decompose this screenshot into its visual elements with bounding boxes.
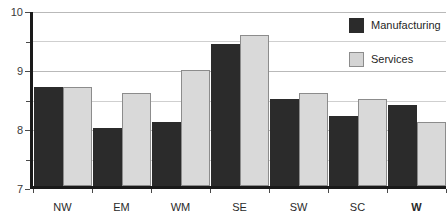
x-axis-label-wm: WM: [151, 199, 210, 215]
y-tick-mark: [25, 71, 30, 72]
bar-chart: 78910 NWEMWMSESWSCW Manufacturing Servic…: [0, 0, 448, 223]
x-tick-mark: [92, 189, 93, 193]
bar-wm-services: [181, 70, 210, 186]
bar-group: [151, 12, 210, 186]
y-tick-label: 10: [11, 7, 23, 18]
bar-se-services: [240, 35, 269, 186]
bar-w-manufacturing: [388, 105, 417, 186]
x-axis-label-sw: SW: [269, 199, 328, 215]
y-axis-line: [30, 12, 33, 189]
x-tick-mark: [269, 189, 270, 193]
bar-group: [92, 12, 151, 186]
legend-swatch-services-icon: [349, 52, 364, 67]
bar-group: [33, 12, 92, 186]
chart-legend: Manufacturing Services: [349, 16, 441, 84]
x-axis-label-em: EM: [92, 199, 151, 215]
x-axis-ticks: [33, 184, 446, 189]
bar-sc-services: [358, 99, 387, 186]
legend-item-manufacturing: Manufacturing: [349, 16, 441, 34]
x-axis-labels: NWEMWMSESWSCW: [33, 199, 446, 215]
y-tick-mark: [25, 12, 30, 13]
x-tick-mark: [446, 189, 447, 193]
legend-label-services: Services: [371, 54, 413, 65]
y-tick-mark-minor: [26, 101, 30, 102]
bar-wm-manufacturing: [152, 122, 181, 186]
x-axis-label-w: W: [387, 199, 446, 215]
x-tick-mark: [210, 189, 211, 193]
x-axis-label-nw: NW: [33, 199, 92, 215]
y-tick-label: 7: [17, 184, 23, 195]
bar-se-manufacturing: [211, 44, 240, 186]
y-tick-label: 8: [17, 125, 23, 136]
bar-group: [210, 12, 269, 186]
bar-sw-manufacturing: [270, 99, 299, 186]
bar-nw-services: [63, 87, 92, 186]
x-tick-mark: [328, 189, 329, 193]
bar-sw-services: [299, 93, 328, 186]
bar-w-services: [417, 122, 446, 186]
x-axis-label-se: SE: [210, 199, 269, 215]
legend-swatch-manufacturing-icon: [349, 18, 364, 33]
y-tick-mark-minor: [26, 160, 30, 161]
y-tick-mark-minor: [26, 42, 30, 43]
y-tick-label: 9: [17, 66, 23, 77]
bar-sc-manufacturing: [329, 116, 358, 186]
bar-em-manufacturing: [93, 128, 122, 186]
bar-nw-manufacturing: [34, 87, 63, 186]
x-tick-mark: [151, 189, 152, 193]
y-tick-mark: [25, 189, 30, 190]
bar-group: [269, 12, 328, 186]
x-tick-mark: [33, 189, 34, 193]
y-tick-mark: [25, 130, 30, 131]
x-tick-mark: [387, 189, 388, 193]
legend-label-manufacturing: Manufacturing: [371, 20, 441, 31]
bar-em-services: [122, 93, 151, 186]
x-axis-label-sc: SC: [328, 199, 387, 215]
legend-item-services: Services: [349, 50, 441, 68]
